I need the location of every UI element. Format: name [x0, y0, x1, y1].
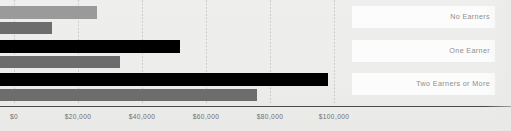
bar-two-earners-or-more-series-1: [0, 73, 328, 86]
bar-no-earners-series-1: [0, 6, 97, 19]
bar-one-earner-series-1: [0, 40, 180, 53]
x-tick-label-60000: $60,000: [193, 113, 220, 120]
category-label-no-earners: No Earners: [352, 6, 490, 28]
bar-no-earners-series-2: [0, 22, 52, 34]
bar-one-earner-series-2: [0, 56, 120, 68]
x-tick-label-20000: $20,000: [65, 113, 92, 120]
x-tick-label-0: $0: [10, 113, 18, 120]
x-tick-label-40000: $40,000: [129, 113, 156, 120]
gridline-80000: [270, 0, 271, 105]
gridline-100000: [334, 0, 335, 105]
x-tick-label-100000: $100,000: [319, 113, 350, 120]
bar-chart: No Earners One Earner Two Earners or Mor…: [0, 0, 511, 131]
bar-two-earners-or-more-series-2: [0, 89, 257, 101]
category-label-one-earner: One Earner: [352, 40, 490, 62]
category-label-two-earners-or-more: Two Earners or More: [352, 73, 490, 95]
plot-area: No Earners One Earner Two Earners or Mor…: [0, 0, 511, 105]
x-tick-label-80000: $80,000: [257, 113, 284, 120]
x-axis-rule: [0, 106, 511, 107]
